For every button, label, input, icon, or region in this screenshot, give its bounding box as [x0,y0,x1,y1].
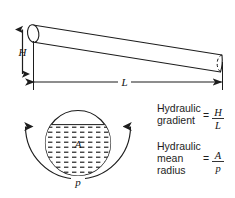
figure-container: H L A p Hydraulic [0,0,235,198]
formula-1-line-1: Hydraulic [157,102,201,114]
formula-1-equals: = [203,109,209,121]
formula-2-numerator: A [214,150,222,161]
formula-1-line-2: gradient [157,114,195,126]
water-area-fill [44,125,112,177]
formula-hydraulic-gradient: Hydraulic gradient = H L [157,102,224,131]
formula-2-line-2: mean [157,152,183,164]
l-label: L [120,76,127,88]
formula-1-numerator: H [213,107,223,118]
formula-2-denominator: p [214,163,220,174]
pipe-body [32,25,222,72]
perimeter-label: p [74,176,81,188]
pipe-group [26,24,222,72]
formula-1-denominator: L [214,120,221,131]
h-label: H [18,46,28,58]
area-label: A [74,138,82,150]
formula-2-equals: = [203,152,209,164]
formula-hydraulic-mean-radius: Hydraulic mean radius = A p [157,140,224,176]
length-dimension: L [34,76,222,88]
formula-2-line-1: Hydraulic [157,140,201,152]
formula-2-line-3: radius [157,164,186,176]
cross-section-group: A [44,111,112,177]
hydraulic-diagram: H L A p Hydraulic [0,0,235,198]
